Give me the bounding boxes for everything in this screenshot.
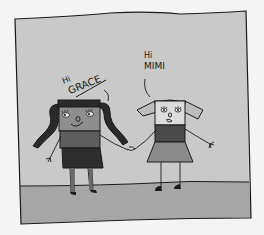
comic-panel: Hi GRACE Hi MIMI [0, 0, 264, 235]
pupil [64, 114, 66, 116]
pupil [88, 113, 90, 115]
speech-mimi-name: MIMI [144, 61, 165, 71]
leg-fill [71, 168, 75, 192]
shirt [60, 131, 100, 148]
illustration: Hi GRACE Hi MIMI [0, 0, 264, 235]
leg-fill [89, 168, 93, 190]
skirt [147, 142, 193, 162]
pupil [177, 109, 179, 111]
speech-mimi-hi: Hi [144, 51, 152, 60]
shirt [155, 125, 185, 142]
pupil [163, 109, 165, 111]
skirt [62, 148, 103, 168]
